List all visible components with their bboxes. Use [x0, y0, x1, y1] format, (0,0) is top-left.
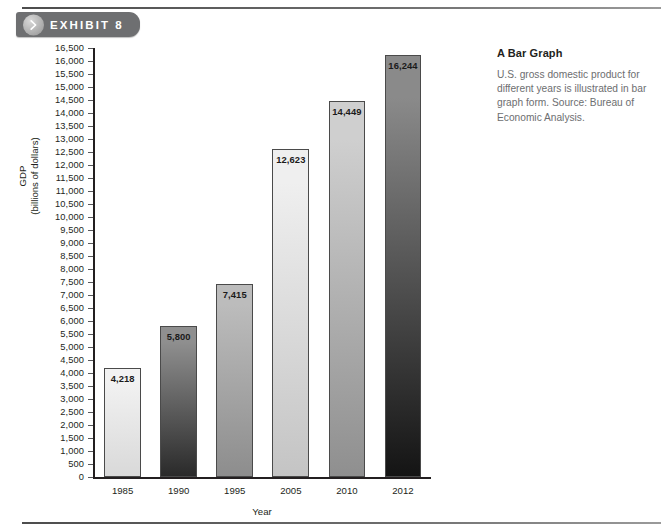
y-axis-tick: [88, 334, 93, 335]
bar-value-label: 12,623: [273, 154, 308, 165]
y-axis-tick: [88, 165, 93, 166]
bottom-divider: [22, 522, 661, 524]
y-axis-tick: [88, 217, 93, 218]
y-axis-tick: [88, 438, 93, 439]
y-axis-tick: [88, 243, 93, 244]
y-axis-tick-label: 8,000: [60, 264, 84, 274]
y-axis-tick-label: 12,000: [55, 160, 84, 170]
top-divider: [22, 7, 661, 9]
y-axis-tick-label: 12,500: [55, 147, 84, 157]
bar[interactable]: 14,449: [329, 101, 366, 477]
y-axis-tick: [88, 178, 93, 179]
y-axis-tick: [88, 100, 93, 101]
y-axis-tick-label: 2,500: [60, 407, 84, 417]
y-axis-tick-label: 7,500: [60, 277, 84, 287]
y-axis-tick: [88, 347, 93, 348]
y-axis-tick-label: 9,000: [60, 238, 84, 248]
bar-value-label: 5,800: [161, 331, 196, 342]
y-axis-tick-label: 8,500: [60, 251, 84, 261]
bar-group: 5,8001990: [160, 48, 197, 477]
y-axis-tick: [88, 412, 93, 413]
x-axis-title: Year: [93, 506, 431, 517]
y-axis-tick-label: 15,500: [55, 69, 84, 79]
y-axis-tick-label: 15,000: [55, 82, 84, 92]
y-axis-tick-label: 9,500: [60, 225, 84, 235]
bar[interactable]: 12,623: [272, 149, 309, 478]
y-axis-tick-label: 7,000: [60, 290, 84, 300]
y-axis-tick: [88, 87, 93, 88]
y-axis-tick-label: 4,000: [60, 368, 84, 378]
y-axis-tick: [88, 113, 93, 114]
y-axis-title-line2: (billions of dollars): [29, 116, 41, 236]
y-axis-tick-label: 5,500: [60, 329, 84, 339]
x-axis-tick-label: 2010: [329, 485, 366, 496]
y-axis-tick-label: 14,500: [55, 95, 84, 105]
y-axis-tick: [88, 399, 93, 400]
y-axis-tick: [88, 308, 93, 309]
y-axis-tick-label: 6,000: [60, 316, 84, 326]
x-axis-tick-label: 1995: [216, 485, 253, 496]
caption-title: A Bar Graph: [497, 47, 649, 59]
y-axis-tick: [88, 464, 93, 465]
x-axis-tick-label: 1985: [104, 485, 141, 496]
y-axis-tick-label: 13,500: [55, 121, 84, 131]
y-axis-tick: [88, 373, 93, 374]
y-axis-tick: [88, 204, 93, 205]
caption-body: U.S. gross domestic product for differen…: [497, 68, 649, 125]
bar[interactable]: 16,244: [385, 55, 422, 478]
bar-group: 4,2181985: [104, 48, 141, 477]
y-axis-tick: [88, 321, 93, 322]
bar[interactable]: 4,218: [104, 368, 141, 478]
y-axis-tick: [88, 126, 93, 127]
exhibit-label: EXHIBIT 8: [50, 19, 124, 31]
bar-group: 12,6232005: [272, 48, 309, 477]
bar[interactable]: 7,415: [216, 284, 253, 477]
y-axis-tick-label: 10,500: [55, 199, 84, 209]
y-axis-tick-label: 1,000: [60, 446, 84, 456]
x-axis-tick-label: 2012: [385, 485, 422, 496]
y-axis-title-line1: GDP: [17, 116, 29, 236]
y-axis-tick-label: 14,000: [55, 108, 84, 118]
y-axis-tick-label: 500: [68, 459, 84, 469]
y-axis-tick-label: 3,000: [60, 394, 84, 404]
y-axis-tick: [88, 295, 93, 296]
x-axis-tick-label: 2005: [272, 485, 309, 496]
y-axis-tick-label: 16,000: [55, 56, 84, 66]
y-axis-tick-label: 11,000: [56, 186, 84, 196]
y-axis-tick: [88, 360, 93, 361]
y-axis-tick: [88, 256, 93, 257]
y-axis-tick-label: 4,500: [60, 355, 84, 365]
y-axis-tick-label: 1,500: [60, 433, 84, 443]
y-axis-tick-label: 13,000: [55, 134, 84, 144]
bar-group: 16,2442012: [385, 48, 422, 477]
chevron-right-icon: [23, 14, 44, 35]
bar-value-label: 16,244: [386, 60, 421, 71]
bar-value-label: 7,415: [217, 289, 252, 300]
y-axis-tick: [88, 451, 93, 452]
caption-panel: A Bar Graph U.S. gross domestic product …: [497, 47, 649, 125]
y-axis-tick: [88, 477, 93, 478]
bar-value-label: 14,449: [330, 106, 365, 117]
y-axis-tick-label: 0: [79, 472, 84, 482]
x-axis-tick-label: 1990: [160, 485, 197, 496]
bar[interactable]: 5,800: [160, 326, 197, 477]
y-axis-tick: [88, 269, 93, 270]
y-axis-tick-label: 11,500: [56, 173, 84, 183]
bar-value-label: 4,218: [105, 373, 140, 384]
y-axis-tick-label: 5,000: [60, 342, 84, 352]
bars-container: 4,21819855,80019907,415199512,623200514,…: [95, 48, 431, 477]
y-axis-tick: [88, 425, 93, 426]
y-axis-title: GDP (billions of dollars): [17, 116, 41, 236]
exhibit-badge: EXHIBIT 8: [16, 12, 140, 37]
y-axis-tick-label: 3,500: [60, 381, 84, 391]
y-axis-tick: [88, 48, 93, 49]
y-axis-tick-label: 2,000: [60, 420, 84, 430]
bar-group: 7,4151995: [216, 48, 253, 477]
y-axis-tick: [88, 386, 93, 387]
bar-chart: 16,50016,00015,50015,00014,50014,00013,5…: [93, 48, 431, 479]
y-axis-tick: [88, 282, 93, 283]
y-axis-tick: [88, 191, 93, 192]
y-axis-tick: [88, 61, 93, 62]
y-axis-tick-label: 10,000: [55, 212, 84, 222]
x-axis-line: [93, 477, 431, 479]
